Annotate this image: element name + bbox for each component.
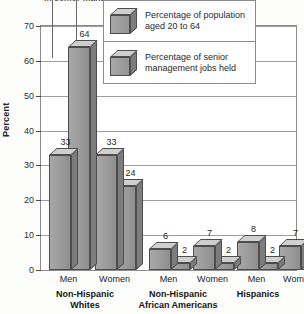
y-axis-tick-label: 60 <box>24 56 34 66</box>
y-axis-tick <box>36 96 41 97</box>
cube-3d-icon <box>110 8 138 34</box>
y-axis-tick-label: 50 <box>24 91 34 101</box>
y-axis-tick <box>36 131 41 132</box>
y-axis-tick-label: 70 <box>24 21 34 31</box>
cube-3d-icon <box>110 50 138 76</box>
x-axis-category-label: Women <box>272 274 304 284</box>
y-axis-tick <box>36 270 41 271</box>
y-axis-tick <box>36 235 41 236</box>
y-axis-tick <box>36 61 41 62</box>
y-axis-tick <box>36 165 41 166</box>
y-axis-tick <box>36 200 41 201</box>
bar-value-label: 7 <box>195 228 224 238</box>
y-axis-tick-label: 20 <box>24 195 34 205</box>
y-axis-tick <box>36 26 41 27</box>
y-axis-tick-label: 0 <box>29 265 34 275</box>
legend-item: Percentage of population aged 20 to 64 <box>104 1 255 42</box>
chart-legend: Percentage of population aged 20 to 64 P… <box>103 0 256 84</box>
bar <box>49 155 71 270</box>
chart-figure: in senior management positions. 01020304… <box>0 0 304 314</box>
bar-value-label: 64 <box>70 29 99 39</box>
y-axis-title: Percent <box>1 103 11 137</box>
legend-item: Percentage of senior management jobs hel… <box>104 42 255 83</box>
bar-value-label: 2 <box>258 245 287 255</box>
bar-value-label: 6 <box>151 231 180 241</box>
x-axis-group-label: Hispanics <box>196 289 304 300</box>
bar-value-label: 24 <box>116 168 145 178</box>
bar-value-label: 33 <box>97 137 126 147</box>
legend-item-label: Percentage of senior management jobs hel… <box>145 52 236 74</box>
bar-value-label: 33 <box>51 137 80 147</box>
bar-value-label: 2 <box>170 245 199 255</box>
annotation-leader-line <box>52 0 53 58</box>
bar-value-label: 2 <box>214 245 243 255</box>
bar-value-label: 1 <box>300 249 304 259</box>
y-axis-tick-label: 10 <box>24 230 34 240</box>
legend-item-label: Percentage of population aged 20 to 64 <box>145 10 245 32</box>
bar <box>149 249 171 270</box>
x-axis-category-label: Women <box>88 274 141 284</box>
y-axis-tick-label: 40 <box>24 126 34 136</box>
bar-value-label: 8 <box>239 224 268 234</box>
bar <box>95 155 117 270</box>
y-axis-tick-label: 30 <box>24 160 34 170</box>
bar-value-label: 7 <box>281 228 304 238</box>
